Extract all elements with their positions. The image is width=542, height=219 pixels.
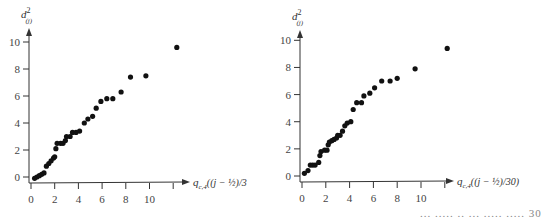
data-point xyxy=(361,93,366,98)
x-tick-label: 10 xyxy=(416,192,428,204)
y-axis-arrow-icon xyxy=(297,30,303,38)
data-point xyxy=(348,119,353,124)
caption-fragment: ... ..... .. ... ..... ..... 30 xyxy=(420,207,542,219)
x-tick-label: 6 xyxy=(371,192,377,204)
data-point xyxy=(90,114,95,119)
chart-left: 02468100246810d2(j)qc,4((j − ½)/3 xyxy=(0,0,263,219)
data-point xyxy=(388,78,393,83)
data-point xyxy=(143,73,148,78)
data-point xyxy=(305,168,310,173)
y-axis-label: d2(j) xyxy=(292,8,304,27)
y-tick-label: 8 xyxy=(15,63,21,75)
chart-right: 02468100246810d2(j)qc,4((j − ½)/30) xyxy=(263,0,527,219)
x-tick-label: 6 xyxy=(99,193,105,205)
data-point xyxy=(53,146,58,151)
scatter-plot-right: 02468100246810d2(j)qc,4((j − ½)/30) xyxy=(263,0,527,219)
y-tick-label: 0 xyxy=(286,170,292,182)
y-tick-label: 4 xyxy=(15,117,21,129)
x-axis xyxy=(29,182,184,183)
data-point xyxy=(340,129,345,134)
x-tick-label: 4 xyxy=(76,193,82,205)
data-point xyxy=(445,46,450,51)
x-tick-label: 0 xyxy=(299,192,305,204)
y-tick-label: 6 xyxy=(15,90,21,102)
data-point xyxy=(324,148,329,153)
x-tick-label: 2 xyxy=(52,193,58,205)
data-point xyxy=(316,160,321,165)
x-axis-label: qc,4((j − ½)/3 xyxy=(193,176,247,191)
data-point xyxy=(351,107,356,112)
x-axis-arrow-icon xyxy=(446,178,454,184)
data-point xyxy=(119,89,124,94)
x-tick-label: 2 xyxy=(323,192,329,204)
data-point xyxy=(354,100,359,105)
x-axis xyxy=(300,181,448,182)
data-point xyxy=(367,91,372,96)
x-tick-label: 0 xyxy=(28,193,34,205)
data-point xyxy=(128,75,133,80)
y-axis-label: d2(j) xyxy=(21,6,33,25)
y-tick-label: 10 xyxy=(280,34,292,46)
data-point xyxy=(174,45,179,50)
y-axis-arrow-icon xyxy=(26,28,32,36)
y-tick-label: 0 xyxy=(15,171,21,183)
data-point xyxy=(110,96,115,101)
scatter-plot-left: 02468100246810d2(j)qc,4((j − ½)/3 xyxy=(0,0,263,219)
x-tick-label: 8 xyxy=(394,192,400,204)
data-point xyxy=(85,116,90,121)
x-axis-arrow-icon xyxy=(182,179,190,185)
x-axis-label: qc,4((j − ½)/30) xyxy=(457,175,520,190)
data-point xyxy=(359,100,364,105)
data-point xyxy=(379,78,384,83)
data-point xyxy=(41,170,46,175)
data-point xyxy=(104,96,109,101)
y-tick-label: 8 xyxy=(286,61,292,73)
data-point xyxy=(82,120,87,125)
y-tick-label: 2 xyxy=(15,144,21,156)
y-tick-label: 2 xyxy=(286,143,292,155)
y-tick-label: 10 xyxy=(9,36,21,48)
x-tick-label: 8 xyxy=(123,193,129,205)
data-point xyxy=(395,76,400,81)
data-point xyxy=(413,66,418,71)
y-tick-label: 4 xyxy=(286,116,292,128)
data-point xyxy=(98,99,103,104)
x-tick-label: 4 xyxy=(347,192,353,204)
x-tick-label: 10 xyxy=(144,193,156,205)
y-tick-label: 6 xyxy=(286,89,292,101)
data-point xyxy=(372,85,377,90)
data-point xyxy=(94,106,99,111)
data-point xyxy=(77,129,82,134)
data-point xyxy=(52,154,57,159)
